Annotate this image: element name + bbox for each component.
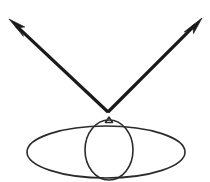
ray-vertex xyxy=(107,111,109,113)
diagram-svg xyxy=(0,0,210,182)
background xyxy=(0,0,210,182)
diagram-canvas xyxy=(0,0,210,182)
